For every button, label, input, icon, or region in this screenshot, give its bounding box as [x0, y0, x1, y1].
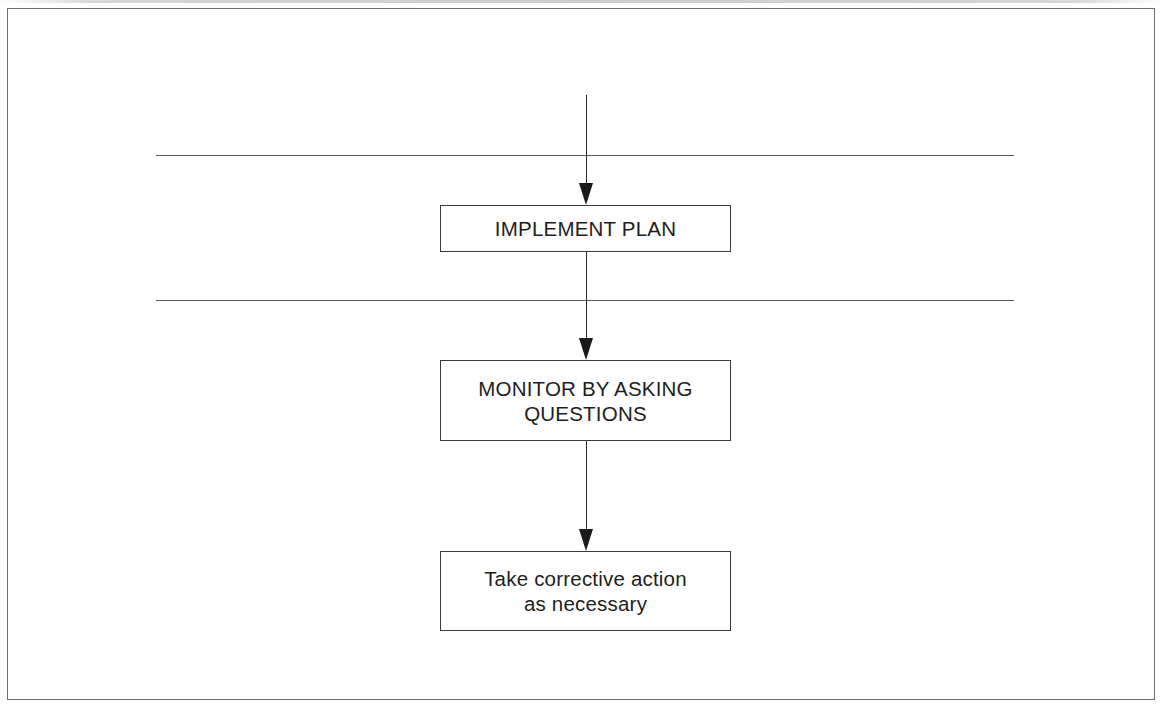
node-implement-plan-label: IMPLEMENT PLAN [495, 216, 676, 241]
node-implement-plan[interactable]: IMPLEMENT PLAN [440, 205, 731, 252]
node-take-corrective-action[interactable]: Take corrective action as necessary [440, 551, 731, 631]
flowchart-figure: IMPLEMENT PLAN MONITOR BY ASKING QUESTIO… [0, 0, 1164, 711]
arrowhead-down-icon [579, 529, 593, 551]
figure-frame: IMPLEMENT PLAN MONITOR BY ASKING QUESTIO… [7, 8, 1155, 700]
connector-shaft [586, 95, 587, 183]
connector-shaft [586, 252, 587, 338]
node-take-corrective-action-label: Take corrective action as necessary [484, 566, 687, 616]
scan-artifact-band [0, 0, 1164, 3]
node-monitor-by-asking-questions[interactable]: MONITOR BY ASKING QUESTIONS [440, 360, 731, 441]
arrowhead-down-icon [579, 338, 593, 360]
phase-separator-upper [156, 155, 1014, 156]
connector-shaft [586, 441, 587, 529]
arrowhead-down-icon [579, 183, 593, 205]
node-monitor-by-asking-questions-label: MONITOR BY ASKING QUESTIONS [478, 376, 693, 426]
phase-separator-lower [156, 300, 1014, 301]
